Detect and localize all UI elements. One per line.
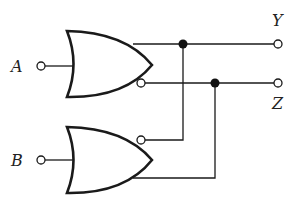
output-y-terminal[interactable] — [274, 40, 282, 48]
input-b-terminal[interactable] — [37, 156, 45, 164]
output-z-terminal[interactable] — [274, 79, 282, 87]
top-gate-inverter-bubble — [137, 79, 145, 87]
bottom-gate-to-z-wire — [133, 83, 215, 178]
input-a-label: A — [9, 57, 23, 76]
output-z-label: Z — [271, 94, 284, 113]
output-y-label: Y — [272, 11, 284, 30]
input-a-terminal[interactable] — [37, 62, 45, 70]
logic-circuit-diagram: A B Y Z — [0, 0, 295, 205]
junction-dot-y — [179, 40, 188, 49]
input-b-label: B — [10, 151, 23, 170]
junction-dot-z — [211, 79, 220, 88]
bottom-gate-to-y-wire — [145, 44, 183, 140]
bottom-gate-inverter-bubble — [137, 136, 145, 144]
